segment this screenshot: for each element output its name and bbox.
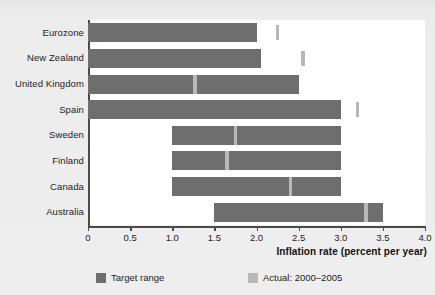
x-tick-label: 4.0 <box>418 232 431 243</box>
bar-row <box>88 126 425 145</box>
legend-label: Actual: 2000–2005 <box>263 272 342 283</box>
legend-swatch-icon <box>248 273 258 283</box>
actual-value-marker <box>225 151 228 170</box>
x-tick-label: 2.5 <box>292 232 305 243</box>
x-tick-mark <box>257 226 258 231</box>
chart-figure: EurozoneNew ZealandUnited KingdomSpainSw… <box>0 0 435 295</box>
x-tick-mark <box>130 226 131 231</box>
legend-swatch-icon <box>96 273 106 283</box>
legend-item: Actual: 2000–2005 <box>248 272 342 283</box>
actual-value-marker <box>234 126 237 145</box>
bar-row <box>88 75 425 94</box>
x-tick-mark <box>88 226 89 231</box>
x-tick-label: 0.5 <box>124 232 137 243</box>
category-label-canada: Canada <box>0 181 84 192</box>
bar-row <box>88 151 425 170</box>
actual-value-marker <box>289 177 292 196</box>
legend-item: Target range <box>96 272 164 283</box>
x-tick-label: 0 <box>85 232 90 243</box>
target-range-bar <box>88 100 341 119</box>
category-axis-labels: EurozoneNew ZealandUnited KingdomSpainSw… <box>0 20 84 225</box>
x-axis-title: Inflation rate (percent per year) <box>276 246 427 257</box>
actual-value-marker <box>356 102 359 117</box>
target-range-bar <box>88 49 261 68</box>
bar-row <box>88 177 425 196</box>
x-tick-mark <box>425 226 426 231</box>
target-range-bar <box>172 151 341 170</box>
category-label-spain: Spain <box>0 104 84 115</box>
x-tick-mark <box>299 226 300 231</box>
x-tick-mark <box>341 226 342 231</box>
category-label-finland: Finland <box>0 155 84 166</box>
x-tick-label: 3.5 <box>376 232 389 243</box>
target-range-bar <box>172 126 341 145</box>
category-label-sweden: Sweden <box>0 129 84 140</box>
x-tick-label: 1.0 <box>166 232 179 243</box>
actual-value-marker <box>301 51 304 66</box>
x-tick-mark <box>383 226 384 231</box>
actual-value-marker <box>364 203 367 222</box>
actual-value-marker <box>276 25 279 40</box>
target-range-bar <box>172 177 341 196</box>
target-range-bar <box>214 203 383 222</box>
x-tick-label: 3.0 <box>334 232 347 243</box>
bar-row <box>88 23 425 42</box>
chart-legend: Target rangeActual: 2000–2005 <box>96 272 396 286</box>
category-label-united-kingdom: United Kingdom <box>0 78 84 89</box>
x-tick-mark <box>172 226 173 231</box>
category-label-australia: Australia <box>0 206 84 217</box>
bar-row <box>88 203 425 222</box>
category-label-new-zealand: New Zealand <box>0 52 84 63</box>
x-tick-mark <box>214 226 215 231</box>
legend-label: Target range <box>111 272 164 283</box>
bar-row <box>88 100 425 119</box>
x-tick-label: 2.0 <box>250 232 263 243</box>
actual-value-marker <box>193 75 196 94</box>
x-tick-label: 1.5 <box>208 232 221 243</box>
bars-layer <box>88 20 425 225</box>
category-label-eurozone: Eurozone <box>0 27 84 38</box>
target-range-bar <box>88 23 257 42</box>
bar-row <box>88 49 425 68</box>
